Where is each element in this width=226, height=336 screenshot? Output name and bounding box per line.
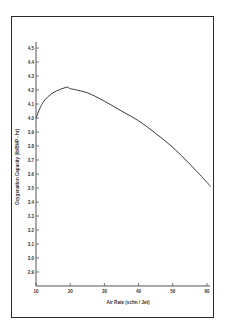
y-tick-label: 3.4 xyxy=(28,200,35,205)
y-tick-label: 3.2 xyxy=(28,228,35,233)
y-tick-label: 4.0 xyxy=(28,116,35,121)
data-line xyxy=(36,87,210,187)
y-tick-label: 3.6 xyxy=(28,172,35,177)
y-tick-label: 3.9 xyxy=(28,130,35,135)
x-axis-title: Air Rate (scfm / Jet) xyxy=(106,300,150,305)
y-axis-ticks: 2.93.03.13.23.33.43.53.63.73.83.94.04.14… xyxy=(28,46,39,275)
y-tick-label: 3.3 xyxy=(28,214,35,219)
y-tick-label: 2.9 xyxy=(28,270,35,275)
line-chart: 2.93.03.13.23.33.43.53.63.73.83.94.04.14… xyxy=(0,0,226,336)
y-tick-label: 3.1 xyxy=(28,242,35,247)
x-tick-label: 10 xyxy=(33,289,39,294)
y-tick-label: 3.5 xyxy=(28,186,35,191)
y-tick-label: 4.5 xyxy=(28,46,35,51)
y-tick-label: 3.0 xyxy=(28,256,35,261)
x-tick-label: 20 xyxy=(68,289,74,294)
y-tick-label: 4.2 xyxy=(28,88,35,93)
x-axis-ticks: 102030405060 xyxy=(33,283,210,294)
y-tick-label: 4.1 xyxy=(28,102,35,107)
y-tick-label: 3.8 xyxy=(28,144,35,149)
y-tick-label: 3.7 xyxy=(28,158,35,163)
x-tick-label: 30 xyxy=(102,289,108,294)
axes xyxy=(36,42,210,286)
x-tick-label: 60 xyxy=(204,289,210,294)
y-tick-label: 4.4 xyxy=(28,60,35,65)
x-tick-label: 50 xyxy=(170,289,176,294)
x-tick-label: 40 xyxy=(136,289,142,294)
y-tick-label: 4.3 xyxy=(28,74,35,79)
y-axis-title: Oxygenation Capacity (lb/BHP - hr) xyxy=(15,128,20,205)
